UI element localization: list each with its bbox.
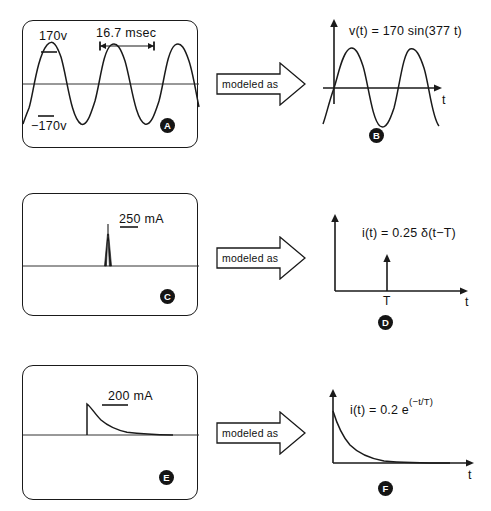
modeled-as-arrow-1: modeled as	[216, 62, 306, 106]
model-d-x-axis-label: t	[465, 296, 468, 309]
scope-a-period-label: 16.7 msec	[96, 27, 156, 40]
model-d-equation: i(t) = 0.25 δ(t−T)	[362, 227, 456, 240]
x-axis-arrowhead	[434, 84, 442, 91]
model-d-axes-and-trace	[318, 205, 483, 325]
scope-e-amplitude-label: 200 mA	[108, 390, 153, 403]
model-f-equation-exponent: (−t/T)	[409, 396, 433, 407]
model-d-x-tick-label: T	[383, 295, 390, 307]
modeled-as-arrow-2: modeled as	[216, 236, 306, 280]
model-f-equation: i(t) = 0.2 e(−t/T)	[350, 401, 433, 417]
panel-badge-b: B	[369, 128, 384, 143]
oscilloscope-panel-c: 250 mA C	[22, 193, 198, 316]
y-axis-arrowhead	[331, 214, 339, 222]
model-f-axes-and-trace	[318, 380, 483, 502]
model-f-equation-base: i(t) = 0.2 e	[350, 403, 409, 417]
impulse-spike	[105, 234, 112, 266]
modeled-as-label-3: modeled as	[222, 428, 278, 439]
scope-c-amplitude-label: 250 mA	[119, 213, 164, 226]
model-plot-f: i(t) = 0.2 e(−t/T) t F	[318, 380, 483, 502]
oscilloscope-panel-e: 200 mA E	[22, 365, 198, 500]
y-axis-arrowhead	[329, 389, 337, 397]
scope-a-amplitude-top-label: 170v	[39, 30, 67, 43]
modeled-as-label-2: modeled as	[222, 253, 278, 264]
signal-modeling-figure: 170v −170v 16.7 msec A modeled as	[0, 0, 491, 511]
model-f-x-axis-label: t	[468, 469, 471, 482]
panel-badge-c: C	[160, 289, 175, 304]
impulse-arrowhead	[383, 254, 390, 262]
panel-badge-e: E	[159, 470, 174, 485]
sine-waveform	[23, 42, 199, 124]
exponential-decay-waveform	[87, 404, 173, 435]
figure-row-impulse: 250 mA C modeled as i(t) = 0.25	[0, 175, 491, 340]
figure-row-exponential: 200 mA E modeled as i(t) = 0.2 e(−t/T)	[0, 340, 491, 511]
panel-badge-f: F	[378, 481, 393, 496]
x-axis-arrowhead	[460, 287, 468, 294]
exponential-decay-waveform	[333, 411, 450, 463]
figure-row-sine: 170v −170v 16.7 msec A modeled as	[0, 0, 491, 175]
y-axis-arrowhead	[330, 19, 338, 27]
model-plot-d: i(t) = 0.25 δ(t−T) T t D	[318, 205, 483, 325]
panel-badge-d: D	[378, 315, 393, 330]
oscilloscope-panel-a: 170v −170v 16.7 msec A	[22, 20, 198, 148]
panel-badge-a: A	[160, 118, 175, 133]
model-b-equation: v(t) = 170 sin(377 t)	[349, 25, 462, 38]
model-plot-b: v(t) = 170 sin(377 t) t B	[318, 16, 483, 148]
scope-a-amplitude-bottom-label: −170v	[31, 120, 67, 133]
modeled-as-label-1: modeled as	[222, 79, 278, 90]
x-axis-arrowhead	[466, 459, 474, 466]
model-b-x-axis-label: t	[442, 94, 445, 107]
modeled-as-arrow-3: modeled as	[216, 411, 306, 455]
